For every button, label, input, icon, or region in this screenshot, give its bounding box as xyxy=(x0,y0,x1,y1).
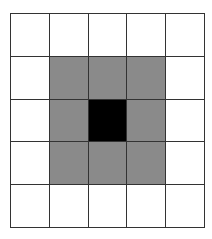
grid-cell-empty xyxy=(127,14,166,57)
grid-cell-neighbor xyxy=(50,100,89,143)
grid-cell-empty xyxy=(166,14,205,57)
grid-cell-empty xyxy=(89,185,128,228)
grid-cell-neighbor xyxy=(89,57,128,100)
grid-cell-empty xyxy=(127,185,166,228)
grid-cell-empty xyxy=(166,142,205,185)
grid-cell-neighbor xyxy=(127,100,166,143)
grid-cell-neighbor xyxy=(127,142,166,185)
grid-cell-empty xyxy=(11,57,50,100)
grid-cell-empty xyxy=(166,100,205,143)
grid-cell-empty xyxy=(11,100,50,143)
grid-cell-empty xyxy=(166,185,205,228)
grid-cell-empty xyxy=(166,57,205,100)
grid-cell-empty xyxy=(11,14,50,57)
grid-cell-empty xyxy=(50,14,89,57)
grid-cell-empty xyxy=(50,185,89,228)
grid-cell-neighbor xyxy=(50,142,89,185)
grid-cell-neighbor xyxy=(89,142,128,185)
grid-cell-neighbor xyxy=(127,57,166,100)
grid-cell-neighbor xyxy=(50,57,89,100)
grid-cell-empty xyxy=(89,14,128,57)
grid-cell-empty xyxy=(11,142,50,185)
grid-cell-empty xyxy=(11,185,50,228)
neighborhood-grid xyxy=(10,13,205,228)
grid-cell-center xyxy=(89,100,128,143)
